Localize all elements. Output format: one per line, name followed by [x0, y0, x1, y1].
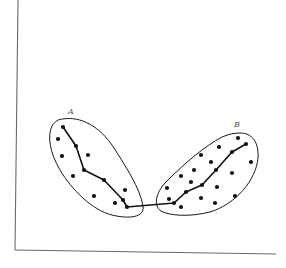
- data-point: [113, 201, 117, 205]
- data-point: [200, 183, 204, 187]
- data-point: [61, 125, 65, 129]
- data-point: [56, 137, 60, 141]
- y-axis: [15, 0, 18, 250]
- data-point: [230, 150, 234, 154]
- data-point: [82, 168, 86, 172]
- data-point: [60, 154, 64, 158]
- data-point: [209, 160, 213, 164]
- data-point: [102, 178, 106, 182]
- data-point: [199, 196, 203, 200]
- cluster-a: A: [50, 107, 144, 217]
- data-point: [192, 168, 196, 172]
- data-point: [92, 194, 96, 198]
- cluster-outline: [50, 118, 144, 217]
- data-point: [213, 201, 217, 205]
- data-point: [86, 153, 90, 157]
- cluster-chaining-diagram: AB: [0, 0, 286, 268]
- data-point: [233, 194, 237, 198]
- data-point: [214, 168, 218, 172]
- x-axis: [15, 250, 276, 254]
- cluster-b: B: [156, 120, 258, 215]
- data-point: [74, 144, 78, 148]
- data-point: [179, 205, 183, 209]
- data-point: [71, 174, 75, 178]
- clusters: AB: [50, 107, 258, 217]
- data-point: [123, 188, 127, 192]
- data-point: [249, 160, 253, 164]
- data-point: [236, 136, 240, 140]
- data-point: [121, 198, 125, 202]
- cluster-label: A: [67, 107, 74, 116]
- data-point: [179, 174, 183, 178]
- data-point: [199, 153, 203, 157]
- cluster-label: B: [233, 120, 240, 129]
- data-point: [189, 180, 193, 184]
- data-point: [167, 197, 171, 201]
- data-point: [230, 171, 234, 175]
- data-point: [215, 185, 219, 189]
- data-point: [217, 145, 221, 149]
- bridge-link: [127, 203, 174, 207]
- data-point: [244, 142, 248, 146]
- data-point: [184, 190, 188, 194]
- data-point: [165, 186, 169, 190]
